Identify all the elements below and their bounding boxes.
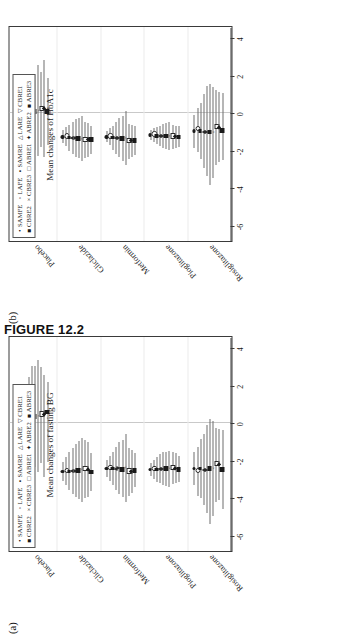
- x-axis-tick: [230, 226, 234, 227]
- category-label-gliclazide: Gliclazide: [75, 553, 105, 585]
- marker-filled-circle-icon: [192, 129, 195, 132]
- panel-b-x-axis: -6-4-2024: [230, 28, 231, 242]
- marker-big-square-icon: [88, 470, 93, 475]
- legend-label: ABRE2: [24, 422, 33, 443]
- x-axis-tick: [230, 76, 234, 77]
- group-separator: [56, 27, 57, 241]
- marker-big-square-icon: [219, 467, 224, 472]
- x-axis-tick-label: 0: [235, 112, 244, 116]
- panel-a: (a) •SAMFE◦LAFE▪SAMRE△LARE▽CBRE1■CBRE2×C…: [8, 332, 308, 608]
- x-axis-tick-label: -6: [235, 534, 244, 541]
- legend-row: •SAMFE◦LAFE▪SAMRE△LARE▽CBRE1: [15, 388, 24, 544]
- legend-marker-diamond-icon: ✦: [24, 444, 33, 451]
- x-axis-tick: [230, 386, 234, 387]
- legend-marker-diamond-icon: ✦: [24, 134, 33, 141]
- legend-label: CBRE3: [24, 175, 33, 196]
- category-label-placebo: Placebo: [32, 243, 56, 269]
- legend-label: ABRE2: [24, 112, 33, 133]
- x-axis-tick-label: 4: [235, 37, 244, 41]
- marker-big-square-icon: [132, 468, 137, 473]
- legend-row: ■CBRE2×CBRE3□ABRE1✦ABRE2■ABRE3: [24, 78, 33, 234]
- category-label-rosiglitazone: Rosiglitazone: [207, 553, 245, 593]
- category-label-metformin: Metformin: [119, 553, 150, 586]
- legend-label: LAFE: [15, 488, 24, 505]
- x-axis-tick: [230, 498, 234, 499]
- legend-label: ABRE3: [24, 81, 33, 102]
- legend-marker-down-triangle-icon: ▽: [15, 417, 24, 424]
- x-axis-tick: [230, 423, 234, 424]
- legend-marker-cross-icon: ×: [24, 506, 33, 513]
- legend-marker-big-square-icon: ■: [24, 412, 33, 419]
- legend-label: LARE: [15, 427, 24, 445]
- legend-marker-big-square-icon: ■: [24, 537, 33, 544]
- legend-marker-up-triangle-icon: △: [15, 134, 24, 141]
- confidence-interval-bar: [209, 419, 210, 524]
- legend-marker-filled-circle-icon: •: [15, 227, 24, 234]
- legend-label: ABRE3: [24, 391, 33, 412]
- group-separator: [100, 337, 101, 551]
- legend-marker-filled-square-icon: ▪: [15, 168, 24, 175]
- group-separator: [143, 27, 144, 241]
- category-label-placebo: Placebo: [32, 553, 56, 579]
- legend-label: LAFE: [15, 178, 24, 195]
- panel-a-tag: (a): [6, 622, 17, 634]
- legend-label: CBRE1: [15, 396, 24, 417]
- legend-marker-filled-square-icon: ▪: [15, 478, 24, 485]
- legend: •SAMFE◦LAFE▪SAMRE△LARE▽CBRE1■CBRE2×CBRE3…: [12, 384, 35, 548]
- x-axis-tick-label: 4: [235, 347, 244, 351]
- confidence-interval-bar: [222, 93, 223, 161]
- x-axis-tick-label: -6: [235, 224, 244, 231]
- group-separator: [56, 337, 57, 551]
- panel-a-plot-area: •SAMFE◦LAFE▪SAMRE△LARE▽CBRE1■CBRE2×CBRE3…: [8, 336, 232, 552]
- group-separator: [187, 27, 188, 241]
- legend-marker-down-triangle-icon: ▽: [15, 107, 24, 114]
- group-separator: [187, 337, 188, 551]
- legend-marker-open-square-icon: □: [24, 475, 33, 482]
- legend-label: CBRE2: [24, 516, 33, 537]
- x-axis-tick: [230, 38, 234, 39]
- category-label-metformin: Metformin: [119, 243, 150, 276]
- zero-reference-line: [9, 422, 231, 423]
- group-separator: [143, 337, 144, 551]
- x-axis-tick: [230, 348, 234, 349]
- legend-marker-up-triangle-icon: △: [15, 444, 24, 451]
- legend-label: CBRE1: [15, 86, 24, 107]
- panel-a-x-axis-label: Mean changes of fasting BG: [44, 338, 54, 552]
- x-axis-tick-label: -2: [235, 459, 244, 466]
- legend-label: CBRE2: [24, 206, 33, 227]
- legend-marker-open-circle-icon: ◦: [15, 195, 24, 202]
- legend-label: SAMFE: [15, 205, 24, 228]
- legend-label: CBRE3: [24, 485, 33, 506]
- x-axis-tick: [230, 536, 234, 537]
- marker-big-square-icon: [132, 138, 137, 143]
- legend-label: LARE: [15, 117, 24, 135]
- x-axis-tick-label: 2: [235, 385, 244, 389]
- marker-big-square-icon: [88, 137, 93, 142]
- marker-cross-icon: [210, 130, 215, 135]
- legend-marker-open-square-icon: □: [24, 165, 33, 172]
- x-axis-tick-label: -4: [235, 496, 244, 503]
- category-label-rosiglitazone: Rosiglitazone: [207, 243, 245, 283]
- legend-label: SAMFE: [15, 515, 24, 538]
- panel-b: (b) •SAMFE◦LAFE▪SAMRE△LARE▽CBRE1■CBRE2×C…: [8, 22, 308, 298]
- marker-filled-circle-icon: [60, 470, 63, 473]
- legend-marker-big-square-icon: ■: [24, 102, 33, 109]
- x-axis-tick-label: -2: [235, 149, 244, 156]
- legend-label: SAMRE: [15, 144, 24, 167]
- panel-b-plot-area: •SAMFE◦LAFE▪SAMRE△LARE▽CBRE1■CBRE2×CBRE3…: [8, 26, 232, 242]
- legend: •SAMFE◦LAFE▪SAMRE△LARE▽CBRE1■CBRE2×CBRE3…: [12, 74, 35, 238]
- marker-big-square-icon: [219, 128, 224, 133]
- legend-label: ABRE1: [24, 454, 33, 475]
- panel-b-x-axis-label: Mean changes of HbA1c: [44, 28, 54, 242]
- x-axis-tick-label: 0: [235, 422, 244, 426]
- category-label-gliclazide: Gliclazide: [75, 243, 105, 275]
- marker-big-square-icon: [176, 135, 181, 140]
- legend-row: •SAMFE◦LAFE▪SAMRE△LARE▽CBRE1: [15, 78, 24, 234]
- legend-marker-big-square-icon: ■: [24, 227, 33, 234]
- figure-caption: FIGURE 12.2: [4, 322, 84, 337]
- x-axis-tick-label: -4: [235, 186, 244, 193]
- category-label-pioglitazone: Pioglitazone: [163, 243, 198, 280]
- legend-label: ABRE1: [24, 144, 33, 165]
- legend-marker-filled-circle-icon: •: [15, 537, 24, 544]
- group-separator: [100, 27, 101, 241]
